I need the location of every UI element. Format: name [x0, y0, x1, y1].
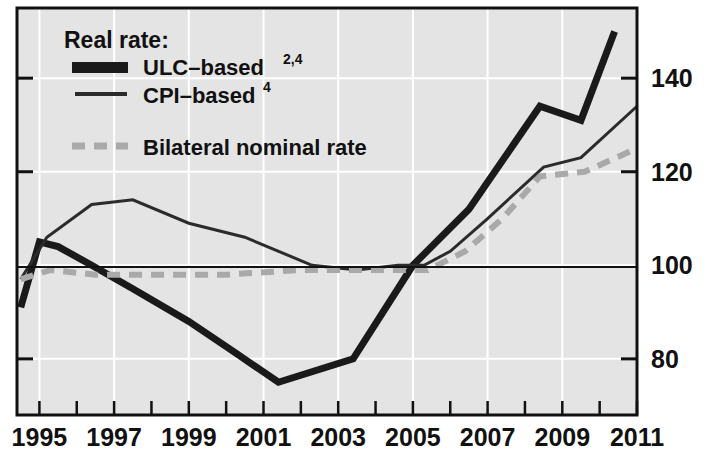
legend-swatch-ulc-based — [72, 62, 128, 73]
legend-swatch-cpi-based — [75, 92, 127, 96]
x-tick-label: 2001 — [236, 423, 292, 450]
legend-label-bilateral-nominal-rate: Bilateral nominal rate — [143, 135, 367, 160]
y-tick-label: 140 — [651, 64, 693, 92]
legend-label-ulc-based: ULC–based — [143, 55, 264, 80]
exchange-rate-line-chart: 80100120140 1995199719992001200320052007… — [0, 0, 720, 450]
y-tick-label: 120 — [651, 158, 693, 186]
x-tick-label: 2005 — [385, 423, 441, 450]
legend-superscript-cpi-based: 4 — [263, 79, 271, 95]
x-tick-label: 2011 — [610, 423, 664, 450]
legend-superscript-ulc-based: 2,4 — [283, 51, 303, 67]
x-tick-label: 2009 — [534, 423, 590, 450]
chart-container: 80100120140 1995199719992001200320052007… — [0, 0, 720, 450]
y-tick-label: 80 — [651, 345, 679, 373]
x-axis-tick-labels: 199519971999200120032005200720092011 — [12, 423, 665, 450]
x-tick-label: 2003 — [310, 423, 366, 450]
y-tick-label: 100 — [651, 251, 693, 279]
x-tick-label: 1999 — [161, 423, 217, 450]
x-tick-label: 1997 — [86, 423, 142, 450]
x-tick-label: 2007 — [460, 423, 516, 450]
legend-label-cpi-based: CPI–based — [143, 83, 256, 108]
legend-title: Real rate: — [64, 27, 169, 53]
x-tick-label: 1995 — [12, 423, 68, 450]
